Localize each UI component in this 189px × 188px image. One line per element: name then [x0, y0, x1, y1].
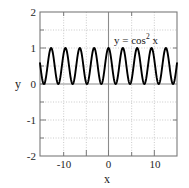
curve-equation-annotation: y = cos2 x [114, 34, 158, 46]
y-tick-label-1: 1 [22, 43, 36, 54]
y-tick-label-2: 2 [22, 7, 36, 18]
chart-figure: 2 1 0 -1 -2 -10 0 10 y x y = cos2 x [0, 0, 189, 188]
annotation-rhs: x [150, 34, 158, 46]
y-tick-label-0: 0 [22, 79, 36, 90]
x-tick-label-0: 0 [98, 159, 119, 170]
x-tick-label-10: 10 [143, 159, 167, 170]
x-axis-title: x [104, 173, 110, 185]
y-axis-title: y [15, 78, 21, 90]
annotation-lhs: y = cos [114, 34, 146, 46]
x-tick-label-neg10: -10 [50, 159, 78, 170]
y-tick-label-neg1: -1 [19, 115, 36, 126]
y-tick-label-neg2: -2 [19, 151, 36, 162]
